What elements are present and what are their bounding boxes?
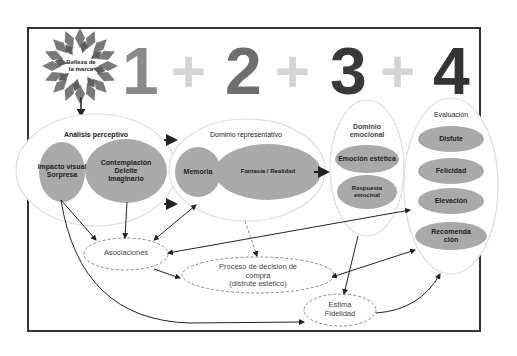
node-recomendacion: Recomenda ción [418, 228, 484, 244]
node-text: emocinal [340, 192, 394, 199]
node-respuesta-emocional: Respuesta emocinal [340, 185, 394, 199]
badge-line-1: Belleza de [58, 59, 104, 66]
badge-label: Belleza de la marca [58, 59, 104, 73]
node-text: (disfrute estético) [198, 280, 318, 289]
node-memoria: Memoria [178, 168, 218, 176]
node-text: Deleite [94, 167, 158, 175]
node-felicidad: Felicidad [421, 167, 481, 175]
node-text: ción [418, 236, 484, 244]
plus-sign-3: + [380, 42, 415, 102]
step-number-3: 3 [330, 38, 367, 104]
stage-title-emocional: Dominio emocional [340, 123, 394, 139]
node-estima-fidelidad: Estima Fidelidad [312, 301, 368, 318]
plus-sign-2: + [275, 42, 310, 102]
stage-title-line: Dominio [340, 123, 394, 131]
node-emocion-estetica: Emoción estética [335, 155, 399, 163]
node-fantasia-realidad: Fantasía / Realidad [225, 168, 311, 175]
badge-line-2: la marca [58, 66, 104, 73]
node-impacto-visual: Impacto visual Sorpresa [36, 163, 88, 179]
node-proceso-decision: Proceso de decision de compra (disfrute … [198, 263, 318, 289]
node-asociaciones: Asociaciones [92, 249, 160, 258]
step-number-2: 2 [225, 38, 262, 104]
node-text: Respuesta [340, 185, 394, 192]
step-number-4: 4 [433, 38, 470, 104]
step-number-1: 1 [122, 38, 159, 104]
node-text: Impacto visual [36, 163, 88, 171]
plus-sign-1: + [171, 42, 206, 102]
node-text: Sorpresa [36, 171, 88, 179]
node-elevacion: Elevación [421, 197, 481, 205]
node-text: Recomenda [418, 228, 484, 236]
stage-title-representativo: Dominio representativo [196, 131, 296, 139]
node-text: Fidelidad [312, 310, 368, 319]
node-text: Imaginario [94, 175, 158, 183]
stage-title-evaluacion: Evaluación [421, 111, 481, 119]
node-contemplacion: Contemplación Deleite Imaginario [94, 159, 158, 183]
node-disfute: Disfute [421, 135, 481, 143]
stage-title-analisis: Análisis perceptivo [46, 131, 146, 139]
stage-title-line: emocional [340, 131, 394, 139]
node-text: Contemplación [94, 159, 158, 167]
